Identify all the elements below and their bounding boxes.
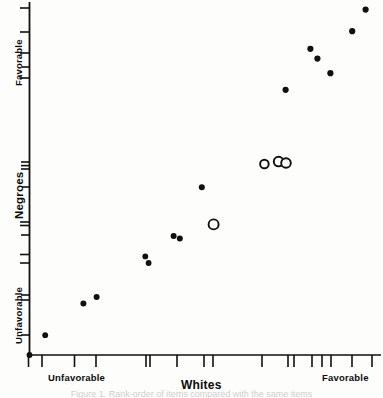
y-axis-title: Negroes [13,172,25,219]
y-axis-high-label: Favorable [13,39,24,86]
data-point-filled [177,236,183,242]
x-axis-high-label: Favorable [322,372,369,383]
data-point-filled [42,332,48,338]
data-point-filled [171,233,177,239]
data-point-filled [94,294,100,300]
data-point-filled [349,28,355,34]
open-data-points [209,157,291,230]
data-point-filled [307,46,313,52]
data-point-filled [314,56,320,62]
data-point-filled [363,7,369,13]
data-point-filled [142,254,148,260]
data-point-open [209,219,219,229]
y-axis-low-label: Unfavorable [13,287,24,344]
data-point-filled [199,184,205,190]
data-point-filled [146,260,152,266]
scatter-plot-figure: Favorable Negroes Unfavorable Unfavorabl… [0,0,383,398]
data-point-open [281,158,291,168]
figure-caption: Figure 1. Rank-order of items compared w… [0,389,383,398]
data-point-filled [27,352,33,358]
data-point-filled [327,70,333,76]
data-point-filled [283,87,289,93]
plot-canvas [0,0,383,398]
x-axis-low-label: Unfavorable [48,372,105,383]
x-axis-ticks [29,355,373,367]
filled-data-points [27,7,369,358]
data-point-filled [80,301,86,307]
data-point-open [260,160,269,169]
